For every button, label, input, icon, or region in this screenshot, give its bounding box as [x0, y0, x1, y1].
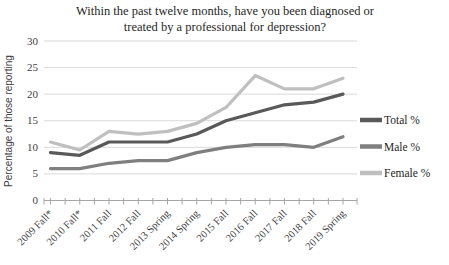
chart-title-line2: treated by a professional for depression…: [124, 20, 327, 34]
y-tick-label-10: 10: [27, 141, 39, 153]
series-lines: [51, 76, 344, 169]
x-tick-labels: 2009 Fall*2010 Fall*2011 Fall2012 Fall20…: [15, 207, 348, 252]
legend-label-male: Male %: [384, 141, 421, 153]
depression-survey-line-chart: Within the past twelve months, have you …: [0, 0, 449, 265]
chart-svg: Within the past twelve months, have you …: [0, 0, 449, 265]
y-tick-label-5: 5: [33, 167, 39, 179]
gridlines: [44, 41, 357, 174]
legend-label-female: Female %: [384, 167, 431, 179]
y-tick-label-30: 30: [27, 35, 39, 47]
y-axis-title: Percentage of those reporting: [3, 55, 14, 187]
legend: Total %Male %Female %: [360, 114, 431, 179]
series-line-female: [51, 76, 344, 150]
y-tick-label-20: 20: [27, 88, 39, 100]
x-axis: [44, 198, 357, 205]
y-tick-label-15: 15: [27, 114, 39, 126]
y-tick-label-0: 0: [33, 194, 39, 206]
y-tick-labels: 051015202530: [27, 35, 39, 207]
legend-label-total: Total %: [384, 114, 420, 126]
chart-title-line1: Within the past twelve months, have you …: [76, 4, 375, 18]
y-tick-label-25: 25: [27, 61, 39, 73]
